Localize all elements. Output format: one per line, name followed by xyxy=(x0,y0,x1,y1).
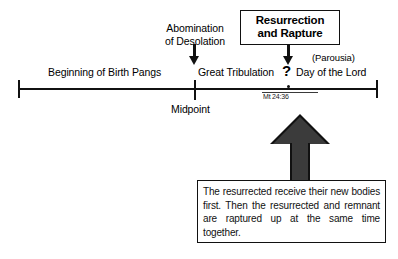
resurrection-rapture-box: Resurrection and Rapture xyxy=(240,10,340,45)
timeline-end-cap xyxy=(376,80,378,98)
resurrection-rapture-line1: Resurrection xyxy=(245,14,335,27)
abomination-callout-line1: Abomination xyxy=(139,22,251,35)
scripture-citation-label: Mt 24:36 xyxy=(263,93,289,100)
arrow-head xyxy=(283,56,293,65)
prophecy-timeline-diagram: Beginning of Birth Pangs Great Tribulati… xyxy=(0,0,398,259)
midpoint-tick xyxy=(194,80,196,100)
explanation-note-box: The resurrected receive their new bodies… xyxy=(197,180,386,243)
resurrection-down-arrow-icon xyxy=(282,44,294,66)
arrow-head xyxy=(189,56,199,65)
resurrection-rapture-line2: and Rapture xyxy=(245,27,335,40)
up-arrow-head-fill xyxy=(273,117,327,144)
segment-label-day-of-the-lord: Day of the Lord xyxy=(296,66,366,78)
parousia-annotation: (Parousia) xyxy=(312,52,355,64)
segment-label-birth-pangs: Beginning of Birth Pangs xyxy=(48,66,161,78)
parousia-point-dot xyxy=(287,85,290,88)
timeline-axis xyxy=(18,88,378,90)
note-up-arrow-icon xyxy=(270,114,330,182)
timeline-start-cap xyxy=(18,80,20,98)
segment-label-great-tribulation: Great Tribulation xyxy=(198,66,274,78)
abomination-down-arrow-icon xyxy=(188,44,200,66)
midpoint-label: Midpoint xyxy=(171,103,210,115)
up-arrow-shaft xyxy=(290,143,310,182)
